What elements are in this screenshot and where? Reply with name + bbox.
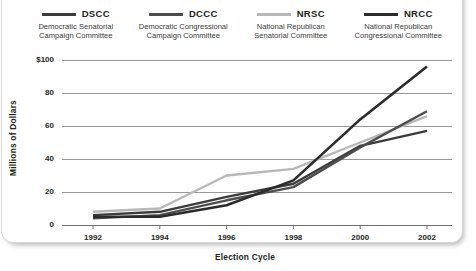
legend-abbr-nrsc: NRSC — [297, 9, 325, 19]
legend-abbr-nrcc: NRCC — [404, 9, 433, 19]
legend-full-dccc: Democratic Congressional Campaign Commit… — [130, 22, 238, 40]
x-axis-title: Election Cycle — [190, 252, 300, 262]
legend-full-nrsc: National Republican Senatorial Committee — [237, 22, 345, 40]
legend-full-nrcc: National Republican Congressional Commit… — [345, 22, 453, 40]
legend-full-dscc: Democratic Senatorial Campaign Committee — [22, 22, 130, 40]
chart-legend: DSCC Democratic Senatorial Campaign Comm… — [22, 9, 452, 47]
legend-item-dccc: DCCC Democratic Congressional Campaign C… — [130, 9, 238, 40]
legend-swatch-nrsc — [257, 13, 291, 16]
legend-swatch-nrcc — [364, 13, 398, 16]
legend-key-nrsc: NRSC — [237, 9, 345, 19]
legend-abbr-dscc: DSCC — [82, 9, 110, 19]
legend-key-dscc: DSCC — [22, 9, 130, 19]
legend-key-nrcc: NRCC — [345, 9, 453, 19]
legend-key-dccc: DCCC — [130, 9, 238, 19]
legend-abbr-dccc: DCCC — [189, 9, 218, 19]
chart-figure: DSCC Democratic Senatorial Campaign Comm… — [0, 0, 476, 271]
legend-swatch-dscc — [42, 13, 76, 16]
legend-swatch-dccc — [149, 13, 183, 16]
legend-item-dscc: DSCC Democratic Senatorial Campaign Comm… — [22, 9, 130, 40]
legend-item-nrcc: NRCC National Republican Congressional C… — [345, 9, 453, 40]
legend-item-nrsc: NRSC National Republican Senatorial Comm… — [237, 9, 345, 40]
